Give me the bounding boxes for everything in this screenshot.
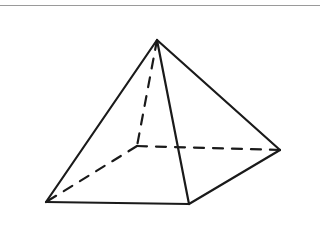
- top-divider-rule: [0, 5, 320, 6]
- base-front-right-to-right: [189, 150, 280, 204]
- base-back-to-front-left: [46, 146, 137, 202]
- base-back-to-right: [137, 146, 280, 150]
- pyramid-diagram-canvas: [0, 0, 320, 234]
- hidden-edges-group: [46, 40, 280, 202]
- base-front-left-to-front-right: [46, 202, 189, 204]
- pyramid-figure: [0, 0, 320, 234]
- apex-to-front-left: [46, 40, 157, 202]
